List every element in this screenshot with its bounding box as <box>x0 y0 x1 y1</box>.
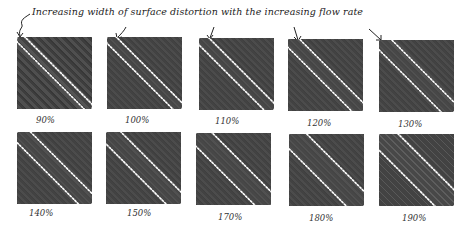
annotation-text: Increasing width of surface distortion w… <box>32 6 363 17</box>
flow-rate-label: 180% <box>309 213 333 223</box>
dotted-band-outline-icon <box>199 38 274 110</box>
flow-rate-label: 130% <box>398 119 422 129</box>
curved-arrow-icon <box>14 12 34 40</box>
distortion-image-panel <box>379 134 454 206</box>
dotted-band-outline-icon <box>107 37 182 109</box>
distortion-image-panel <box>196 133 271 205</box>
distortion-image-panel <box>107 37 182 109</box>
flow-rate-label: 120% <box>307 118 331 128</box>
dotted-band-outline-icon <box>379 40 454 112</box>
dotted-band-outline-icon <box>196 133 271 205</box>
flow-rate-label: 90% <box>36 115 55 125</box>
dotted-band-outline-icon <box>379 134 454 206</box>
distortion-image-panel <box>17 132 92 204</box>
flow-rate-label: 190% <box>402 213 426 223</box>
dotted-band-outline-icon <box>17 132 92 204</box>
dotted-band-outline-icon <box>17 37 92 109</box>
distortion-image-panel <box>199 38 274 110</box>
flow-rate-label: 110% <box>215 116 239 126</box>
dotted-band-outline-icon <box>106 132 181 204</box>
flow-rate-label: 170% <box>218 212 242 222</box>
dotted-band-outline-icon <box>289 134 364 206</box>
flow-rate-label: 100% <box>125 115 149 125</box>
flow-rate-label: 140% <box>29 208 53 218</box>
distortion-image-panel <box>289 134 364 206</box>
distortion-image-panel <box>288 39 363 111</box>
distortion-image-panel <box>17 37 92 109</box>
distortion-image-panel <box>379 40 454 112</box>
distortion-image-panel <box>106 132 181 204</box>
flow-rate-label: 150% <box>127 208 151 218</box>
dotted-band-outline-icon <box>288 39 363 111</box>
